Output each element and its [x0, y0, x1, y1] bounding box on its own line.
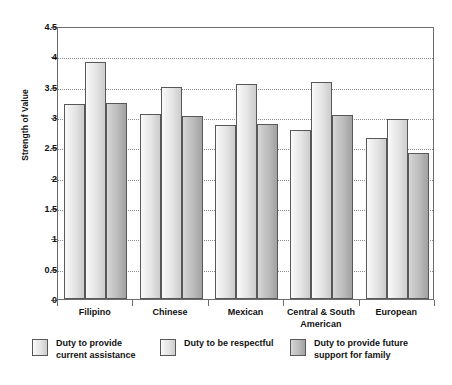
- y-tick-label: 1: [11, 235, 57, 244]
- bar: [140, 114, 161, 299]
- bar: [366, 138, 387, 299]
- legend-item[interactable]: Duty to provide future support for famil…: [290, 338, 408, 361]
- bar: [408, 153, 429, 299]
- y-tick-label: 3: [11, 114, 57, 123]
- bar: [332, 115, 353, 299]
- y-tick-label: 4: [11, 53, 57, 62]
- x-tick-mark: [132, 300, 133, 306]
- y-tick-label: 3.5: [11, 83, 57, 92]
- y-tick-label: 0.5: [11, 265, 57, 274]
- x-tick-mark: [57, 300, 58, 306]
- bar: [290, 130, 311, 299]
- legend-item[interactable]: Duty to provide current assistance: [32, 338, 136, 361]
- legend-swatch-icon: [160, 339, 176, 356]
- legend-label: Duty to provide future support for famil…: [314, 338, 408, 361]
- legend-label: Duty to be respectful: [184, 338, 274, 350]
- y-tick-label: 4.5: [11, 23, 57, 32]
- gridline: [58, 58, 433, 59]
- bar: [64, 104, 85, 299]
- bar-chart: Strength of Value 00.511.522.533.544.5 F…: [0, 0, 452, 385]
- x-tick-mark: [359, 300, 360, 306]
- legend-label: Duty to provide current assistance: [56, 338, 136, 361]
- y-tick-label: 2: [11, 174, 57, 183]
- x-tick-mark: [283, 300, 284, 306]
- bar: [387, 119, 408, 299]
- x-tick-mark: [208, 300, 209, 306]
- y-axis-ticks: 00.511.522.533.544.5: [0, 0, 57, 385]
- legend-swatch-icon: [290, 339, 306, 356]
- bar: [215, 125, 236, 299]
- y-tick-label: 1.5: [11, 205, 57, 214]
- bar: [236, 84, 257, 299]
- legend-swatch-icon: [32, 339, 48, 356]
- bar: [182, 116, 203, 299]
- legend-item[interactable]: Duty to be respectful: [160, 338, 274, 356]
- bar: [161, 87, 182, 299]
- plot-area: [57, 27, 434, 300]
- x-tick-mark: [434, 300, 435, 306]
- y-tick-label: 2.5: [11, 144, 57, 153]
- bar: [85, 62, 106, 299]
- bar: [257, 124, 278, 299]
- bar: [106, 103, 127, 299]
- x-axis-group-label: European: [351, 307, 442, 319]
- bar: [311, 82, 332, 299]
- chart-legend: Duty to provide current assistanceDuty t…: [0, 338, 452, 378]
